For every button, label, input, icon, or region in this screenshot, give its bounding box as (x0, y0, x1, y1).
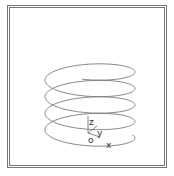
z-axis-label: z (89, 117, 94, 127)
helix-diagram: z y o x (0, 0, 174, 176)
origin-label: o (88, 135, 94, 145)
x-axis-label: x (106, 140, 112, 150)
y-axis-label: y (97, 128, 103, 138)
